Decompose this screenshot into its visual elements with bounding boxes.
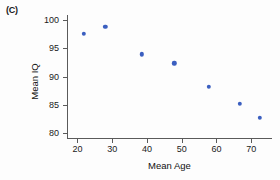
x-tick-mark	[147, 139, 148, 143]
x-axis-spine	[67, 138, 272, 139]
scatter-plot-figure: (C) 80859095100 203040506070 Mean IQ Mea…	[0, 0, 280, 180]
data-point	[140, 52, 144, 56]
data-point	[82, 32, 86, 36]
x-tick-label: 20	[62, 144, 92, 154]
x-tick-mark	[182, 139, 183, 143]
x-tick-label: 70	[236, 144, 266, 154]
y-axis-title: Mean IQ	[29, 42, 40, 122]
y-tick-mark	[63, 48, 67, 49]
x-tick-mark	[112, 139, 113, 143]
x-tick-mark	[216, 139, 217, 143]
data-point	[103, 25, 107, 29]
y-tick-mark	[63, 77, 67, 78]
data-point	[172, 61, 176, 65]
data-point	[258, 116, 262, 120]
x-tick-mark	[77, 139, 78, 143]
plot-area: 80859095100 203040506070 Mean IQ Mean Ag…	[0, 0, 280, 180]
y-tick-mark	[63, 105, 67, 106]
y-tick-mark	[63, 133, 67, 134]
y-axis-spine	[67, 15, 68, 138]
x-tick-label: 60	[201, 144, 231, 154]
y-tick-label: 80	[33, 128, 59, 138]
y-tick-label: 100	[33, 15, 59, 25]
x-tick-mark	[251, 139, 252, 143]
x-tick-label: 40	[132, 144, 162, 154]
y-tick-mark	[63, 20, 67, 21]
x-axis-title: Mean Age	[67, 160, 272, 171]
data-point	[207, 85, 211, 89]
x-tick-label: 30	[97, 144, 127, 154]
data-point	[237, 102, 241, 106]
x-tick-label: 50	[167, 144, 197, 154]
